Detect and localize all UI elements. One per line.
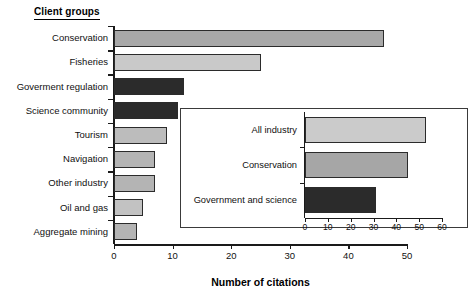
inset-bar-chart: All industryConservationGovernment and s… bbox=[180, 108, 474, 238]
category-tick bbox=[108, 196, 114, 197]
category-label: Conservation bbox=[52, 33, 114, 43]
value-tick-label: 50 bbox=[392, 250, 422, 261]
value-tick-label: 10 bbox=[316, 222, 340, 232]
category-label: Other industry bbox=[48, 178, 114, 188]
bar bbox=[305, 152, 408, 178]
category-label: Fisheries bbox=[69, 57, 114, 67]
main-value-axis-line bbox=[114, 244, 407, 246]
value-tick-label: 30 bbox=[362, 222, 386, 232]
category-tick bbox=[108, 74, 114, 75]
value-tick-label: 50 bbox=[407, 222, 431, 232]
value-tick bbox=[348, 244, 349, 249]
category-label: Navigation bbox=[63, 154, 114, 164]
bar bbox=[305, 187, 376, 213]
value-tick-label: 40 bbox=[333, 250, 363, 261]
category-tick bbox=[108, 123, 114, 124]
bar bbox=[114, 151, 155, 168]
category-tick bbox=[108, 147, 114, 148]
bar bbox=[305, 117, 426, 143]
value-tick-label: 30 bbox=[275, 250, 305, 261]
category-label: Government and science bbox=[194, 195, 302, 205]
category-tick bbox=[108, 171, 114, 172]
value-tick bbox=[114, 244, 115, 249]
category-tick bbox=[108, 26, 114, 27]
category-label: Goverment regulation bbox=[17, 82, 114, 92]
value-tick-label: 40 bbox=[384, 222, 408, 232]
figure-client-group-citations: Client groups ConservationFisheriesGover… bbox=[0, 0, 474, 301]
bar bbox=[114, 223, 137, 240]
value-tick bbox=[290, 244, 291, 249]
category-label: Aggregate mining bbox=[34, 227, 114, 237]
value-tick-label: 20 bbox=[339, 222, 363, 232]
category-tick bbox=[108, 220, 114, 221]
bar bbox=[114, 175, 155, 192]
main-xaxis-title: Number of citations bbox=[114, 276, 407, 288]
value-tick-label: 60 bbox=[430, 222, 454, 232]
category-label: Conservation bbox=[242, 160, 302, 170]
value-tick-label: 20 bbox=[216, 250, 246, 261]
main-chart-title: Client groups bbox=[34, 6, 100, 20]
value-tick bbox=[231, 244, 232, 249]
bar bbox=[114, 30, 384, 47]
bar bbox=[114, 78, 184, 95]
value-tick-label: 0 bbox=[99, 250, 129, 261]
category-tick bbox=[108, 50, 114, 51]
category-label: Tourism bbox=[75, 130, 114, 140]
category-label: All industry bbox=[252, 125, 302, 135]
value-tick bbox=[173, 244, 174, 249]
value-tick-label: 0 bbox=[293, 222, 317, 232]
value-tick-label: 10 bbox=[158, 250, 188, 261]
bar bbox=[114, 199, 143, 216]
category-label: Oil and gas bbox=[60, 203, 114, 213]
category-label: Science community bbox=[26, 106, 114, 116]
category-tick bbox=[108, 99, 114, 100]
category-tick bbox=[300, 183, 305, 184]
bar bbox=[114, 102, 178, 119]
bar bbox=[114, 127, 167, 144]
category-tick bbox=[300, 147, 305, 148]
bar bbox=[114, 54, 261, 71]
value-tick bbox=[407, 244, 408, 249]
